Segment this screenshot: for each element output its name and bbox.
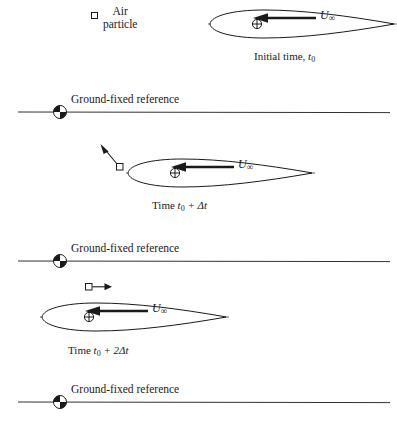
airfoil-shape-t0-2dt <box>40 300 229 332</box>
ground-ref-2-label: Ground-fixed reference <box>71 242 179 254</box>
airfoil-outline <box>42 303 226 331</box>
caption-t0-2dt: Time t0 + 2Δt <box>68 344 129 359</box>
velocity-base: U <box>152 301 161 315</box>
air-particle-square-icon <box>117 164 124 171</box>
velocity-subscript: ∞ <box>161 306 167 316</box>
air-particle-label-line2: particle <box>103 18 137 31</box>
ground-ref-2 <box>0 253 397 271</box>
center-marker-icon <box>252 19 261 28</box>
velocity-base: U <box>320 8 329 22</box>
airfoil-panel-t0-dt <box>126 156 315 188</box>
air-particle-square-icon <box>86 284 93 291</box>
velocity-label-initial: U∞ <box>320 8 335 23</box>
caption-t0-2dt-prefix: Time <box>68 344 91 356</box>
caption-t0-dt-prefix: Time <box>152 199 175 211</box>
ground-ref-1-line <box>0 104 397 122</box>
caption-t0-2dt-suffix: + 2Δt <box>103 344 128 356</box>
ground-ref-3 <box>0 394 397 412</box>
ground-ref-3-label: Ground-fixed reference <box>71 383 179 395</box>
velocity-base: U <box>238 157 247 171</box>
center-marker-icon <box>84 312 93 321</box>
air-particle-moving-2 <box>84 278 120 296</box>
benchmark-icon <box>54 255 67 268</box>
airfoil-outline <box>128 159 312 187</box>
air-particle-legend-label: Air particle <box>103 5 137 31</box>
caption-initial-sub: 0 <box>311 55 315 64</box>
caption-t0-2dt-sub: 0 <box>97 349 101 358</box>
airfoil-shape-t0-dt <box>126 156 315 188</box>
airfoil-panel-initial <box>208 7 397 39</box>
velocity-subscript: ∞ <box>247 162 253 172</box>
airfoil-shape-initial <box>208 7 397 39</box>
air-particle-legend <box>88 8 102 22</box>
caption-t0-dt-sub: 0 <box>181 204 185 213</box>
benchmark-icon <box>54 106 67 119</box>
caption-t0-dt: Time t0 + Δt <box>152 199 207 214</box>
airfoil-outline <box>210 10 394 38</box>
airfoil-motion-figure: Air particle U∞ Initial time, t0 <box>0 0 397 421</box>
particle-velocity-arrow-horizontal-icon <box>84 278 120 296</box>
velocity-subscript: ∞ <box>329 13 335 23</box>
benchmark-icon <box>54 396 67 409</box>
ground-ref-2-line <box>0 253 397 271</box>
air-particle-square-icon <box>88 8 102 22</box>
caption-initial-prefix: Initial time, <box>254 50 305 62</box>
center-marker-icon <box>170 168 179 177</box>
air-particle-label-line1: Air <box>103 5 137 18</box>
ground-ref-3-line <box>0 394 397 412</box>
ground-ref-1 <box>0 104 397 122</box>
caption-initial: Initial time, t0 <box>254 50 315 65</box>
caption-t0-dt-suffix: + Δt <box>187 199 207 211</box>
velocity-label-t0-dt: U∞ <box>238 157 253 172</box>
velocity-label-t0-2dt: U∞ <box>152 301 167 316</box>
ground-ref-1-label: Ground-fixed reference <box>71 93 179 105</box>
airfoil-panel-t0-2dt <box>40 300 229 332</box>
